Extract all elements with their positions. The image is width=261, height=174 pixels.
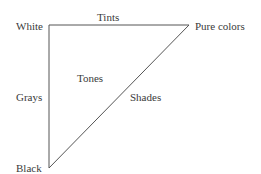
edge-tints-label: Tints <box>97 11 119 23</box>
edge-shades <box>49 25 189 168</box>
edge-grays-label: Grays <box>16 91 42 103</box>
edge-shades-label: Shades <box>130 91 161 103</box>
vertex-pure-colors-label: Pure colors <box>195 20 245 32</box>
interior-tones-label: Tones <box>77 72 103 84</box>
vertex-black-label: Black <box>16 162 42 174</box>
vertex-white-label: White <box>16 20 43 32</box>
